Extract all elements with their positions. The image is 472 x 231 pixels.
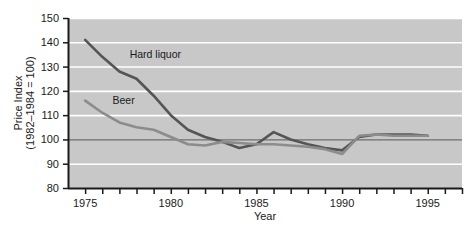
y-axis-title-line1: Price Index [12, 75, 24, 131]
x-tick-label-1990: 1990 [330, 197, 354, 209]
x-tick-label-1975: 1975 [73, 197, 97, 209]
y-axis-title-line2: (1982–1984 = 100) [24, 56, 36, 149]
y-tick-label-100: 100 [41, 133, 59, 145]
x-tick-label-1980: 1980 [159, 197, 183, 209]
y-tick-label-120: 120 [41, 85, 59, 97]
y-tick-label-150: 150 [41, 12, 59, 24]
y-tick-label-80: 80 [47, 182, 59, 194]
x-axis-title: Year [254, 210, 277, 222]
price-index-line-chart: 8090100110120130140150 19751980198519901… [0, 0, 472, 231]
x-axis-tick-labels: 19751980198519901995 [73, 197, 440, 209]
chart-figure: 8090100110120130140150 19751980198519901… [0, 0, 472, 231]
series-label-beer: Beer [113, 94, 136, 106]
series-label-hard-liquor: Hard liquor [130, 48, 182, 60]
y-tick-label-110: 110 [41, 109, 59, 121]
y-tick-label-90: 90 [47, 158, 59, 170]
x-tick-label-1995: 1995 [415, 197, 439, 209]
y-tick-label-140: 140 [41, 36, 59, 48]
x-tick-label-1985: 1985 [244, 197, 268, 209]
y-tick-label-130: 130 [41, 61, 59, 73]
y-axis-title: Price Index (1982–1984 = 100) [12, 56, 36, 149]
y-axis-ticks: 8090100110120130140150 [41, 12, 68, 194]
